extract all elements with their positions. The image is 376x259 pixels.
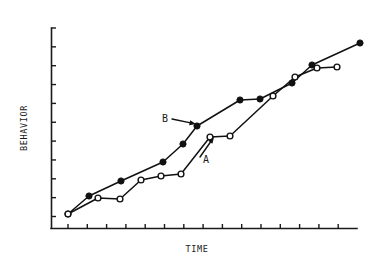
x-axis-title: TIME <box>186 244 209 254</box>
data-point-b-2 <box>118 178 124 184</box>
annotation-label-a: A <box>203 154 209 165</box>
series-a-line <box>68 67 337 214</box>
data-point-b-10 <box>357 40 363 46</box>
annotation-label-b: B <box>162 113 168 124</box>
data-point-a-0 <box>65 211 71 217</box>
data-point-a-5 <box>178 171 184 177</box>
data-point-a-11 <box>334 64 340 70</box>
chart-figure: BA BEHAVIOR TIME <box>0 0 376 259</box>
data-point-a-1 <box>95 195 101 201</box>
data-point-b-7 <box>257 96 263 102</box>
data-point-a-10 <box>314 65 320 71</box>
data-point-a-7 <box>227 133 233 139</box>
data-point-a-8 <box>270 93 276 99</box>
data-point-b-8 <box>289 80 295 86</box>
data-point-a-3 <box>138 177 144 183</box>
annotation-arrow-shaft-b <box>172 119 191 123</box>
data-point-b-6 <box>237 97 243 103</box>
data-point-b-1 <box>86 193 92 199</box>
data-point-a-4 <box>158 173 164 179</box>
line-chart-canvas: BA BEHAVIOR TIME <box>0 0 376 259</box>
series-a-markers <box>65 64 340 217</box>
y-axis-title: BEHAVIOR <box>19 105 29 151</box>
data-point-a-9 <box>292 74 298 80</box>
data-point-b-4 <box>180 141 186 147</box>
data-point-a-2 <box>117 196 123 202</box>
data-point-b-3 <box>160 159 166 165</box>
